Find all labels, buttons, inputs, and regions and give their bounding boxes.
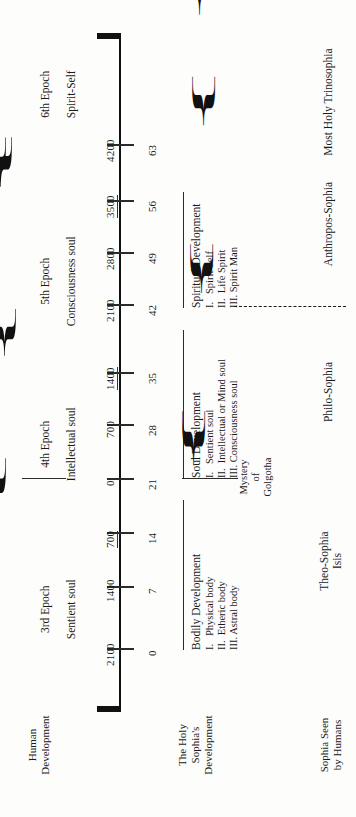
bodily-rule [183,500,184,650]
axis-age-label: 42 [146,305,158,316]
epoch-label-line1: 4th Epoch [39,421,51,468]
axis-year-label: 700 [104,531,118,548]
bodily-development-heading: Bodily Development [190,554,203,650]
epoch-label-3rd: 3rd Epoch Sentient soul [26,530,90,700]
axis-cap-top [97,33,121,39]
sophia-name-theo: Theo-Sophia Isis [318,480,344,642]
diagram-canvas: 4200 3500 2800 2100 1400 700 0 700 1400 … [0,0,356,817]
axis-age-label: 7 [146,589,158,595]
axis-year-label: 1400 [104,579,116,602]
axis-year-label: 2800 [104,247,116,270]
epoch-label-5th: 5th Epoch Consciousness soul [26,212,90,362]
axis-year-label: 2100 [104,643,116,666]
epoch-label-line2: Sentient soul [65,579,77,639]
soul-item-2: II. Intellectual or Mind soul [216,359,228,478]
epoch-label-line2: Spirit-Self [65,70,77,118]
axis-year-label: 4200 [104,139,116,162]
corner-label-sophia-seen: Sophia Seen by Humans [318,685,344,805]
sophia-brace: { [288,144,310,304]
axis-age-label: 35 [146,373,158,384]
age21-connector [22,478,66,479]
axis-age-label: 49 [146,253,158,264]
axis-year-label: 1400 [104,367,118,390]
spiritual-rule [183,192,184,308]
bodily-item-2: II. Etheric body [216,581,228,650]
sophia-brace: { [288,312,310,474]
axis-age-label: 0 [146,651,158,657]
bodily-item-3: III. Astral body [228,586,240,650]
epoch-label-line1: 5th Epoch [39,258,51,305]
sophia-name-anthropos: Anthropos-Sophia [322,150,335,298]
epoch-label-6th: 6th Epoch Spirit-Self [26,25,90,175]
axis-year-label: 2100 [104,299,116,322]
corner-label-holy-sophia: The Holy Sophia's Development [176,685,216,805]
axis-age-label: 63 [146,145,158,156]
epoch-label-line1: 6th Epoch [39,71,51,118]
axis-age-label: 28 [146,425,158,436]
epoch-label-line2: Consciousness soul [65,236,77,326]
mystery-of-golgotha-label: Mystery of Golgotha [238,447,274,507]
axis-year-label: 3500 [104,195,118,218]
axis-cap-bottom [97,706,121,712]
spiritual-item-3: III. Spirit Man [228,247,240,308]
bodily-item-1: I. Physical body [204,577,216,650]
sophia-name-philo: Philo-Sophia [322,318,335,466]
epoch-dashed-separator [234,306,346,307]
axis-year-label: 700 [104,421,116,438]
sophia-brace: { [288,486,310,666]
corner-label-human-development: Human Development [26,690,52,800]
axis-year-label: 0 [104,480,116,486]
epoch-label-line2: Intellectual soul [65,407,77,481]
axis-age-label: 21 [146,479,158,490]
axis-age-label: 14 [146,533,158,544]
epoch-label-4th: 4th Epoch Intellectual soul [26,378,90,522]
epoch-label-line1: 3rd Epoch [39,585,51,633]
axis-age-label: 56 [146,201,158,212]
